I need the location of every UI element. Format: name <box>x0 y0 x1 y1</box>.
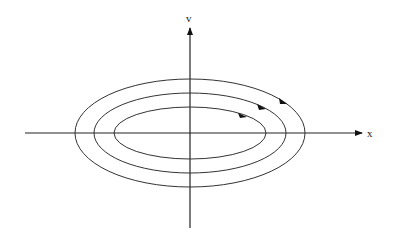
v-axis-label: v <box>186 12 192 24</box>
orbit-middle-arrow-icon <box>257 104 266 110</box>
x-axis-label: x <box>367 127 373 139</box>
orbit-outer-arrow-icon <box>279 98 287 104</box>
phase-portrait-diagram: x v <box>0 0 394 240</box>
